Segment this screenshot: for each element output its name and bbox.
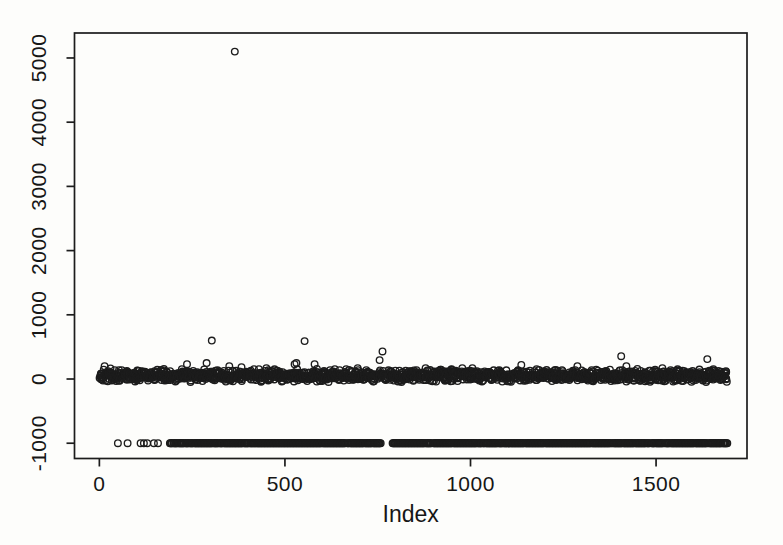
data-point <box>184 361 191 368</box>
data-point <box>301 338 308 345</box>
x-tick-label: 1000 <box>446 472 495 495</box>
x-axis-ticks: 050010001500 <box>93 459 680 496</box>
data-point <box>209 337 216 344</box>
y-tick-label: 3000 <box>27 162 50 211</box>
y-axis-ticks: -1000010002000300040005000 <box>27 34 75 472</box>
data-point <box>704 356 711 363</box>
y-tick-label: 2000 <box>27 226 50 275</box>
x-tick-label: 1500 <box>632 472 681 495</box>
scanned-figure-page: 050010001500 -1000010002000300040005000 … <box>0 0 783 545</box>
data-point <box>376 357 383 364</box>
y-tick-label: -1000 <box>27 415 50 471</box>
data-point <box>226 363 233 370</box>
x-axis-title: Index <box>383 501 440 527</box>
data-point <box>518 362 525 369</box>
data-point <box>155 440 162 447</box>
data-points <box>96 48 730 446</box>
data-point <box>115 440 122 447</box>
data-point <box>618 353 625 360</box>
data-point <box>203 360 210 367</box>
y-tick-label: 1000 <box>27 290 50 339</box>
y-tick-label: 5000 <box>27 34 50 83</box>
y-tick-label: 0 <box>27 373 50 385</box>
plot-box <box>75 33 748 459</box>
x-tick-label: 500 <box>267 472 304 495</box>
data-point <box>379 348 386 355</box>
x-tick-label: 0 <box>93 472 105 495</box>
data-point <box>124 440 131 447</box>
data-point <box>232 48 239 55</box>
scatter-plot: 050010001500 -1000010002000300040005000 … <box>0 0 783 545</box>
y-tick-label: 4000 <box>27 98 50 147</box>
